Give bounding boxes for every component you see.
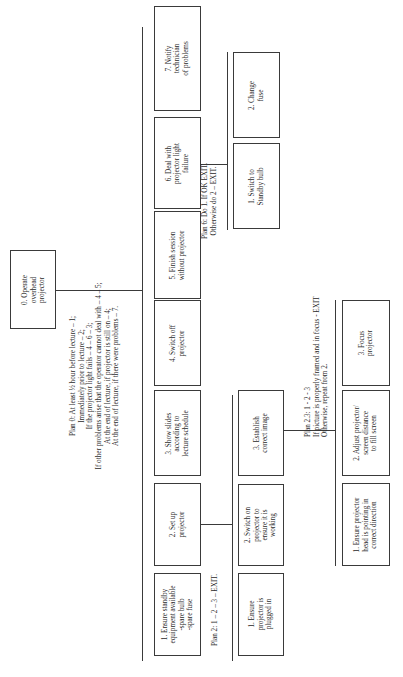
task-label-2-3: 3. Establish correct image [238, 390, 284, 476]
task-label-2-3-3: 3. Focus projector [342, 300, 390, 386]
plan-2-3-line-1: Plan 2.3: 1 - 2 - 3 [304, 387, 313, 437]
subbus-task23 [335, 300, 336, 566]
subbus-task6 [227, 52, 228, 230]
plan-0-line-4: If other problems arise that the operato… [95, 283, 104, 470]
task-label-5: 5. Finish session without projector [154, 212, 201, 300]
plan-2-3-line-3: Otherwise, repeat from 2. [321, 363, 330, 437]
task-label-2: 2. Set up projector [154, 483, 201, 566]
task-label-4: 4. Switch off projector [154, 301, 201, 387]
task-label-2-3-1: 1. Ensure projector head is pointing in … [342, 484, 390, 567]
task-label-2-3-2: 2. Adjust projector/ screen distance to … [342, 390, 390, 476]
task-label-6: 6. Deal with projector light failure [154, 118, 201, 210]
plan-2-3-line-2: If picture is properly framed and in foc… [313, 296, 322, 437]
plan-6-line-1: Plan 6: Do 1. If OK EXIT. [201, 163, 210, 239]
task-label-1: 1. Ensure standby equipment available -s… [154, 573, 201, 656]
subbus-task2 [232, 395, 233, 661]
connector-task2-to-subbus [201, 524, 232, 525]
plan-0-line-6: At the end of lecture, if there were pro… [112, 306, 121, 446]
plan-0-line-5: At the end of lecture, if projector is s… [104, 308, 113, 444]
plan-2-text: Plan 2: 1 – 2 – 3 – EXIT. [209, 555, 221, 665]
plan-0-line-3: If the projector light fails – 4 – 6 – 3… [86, 323, 95, 430]
main-bus-line [142, 27, 143, 661]
plan-6-line-2: Otherwise do 2 – EXIT. [210, 167, 219, 236]
task-label-3: 3. Show slides according to lecture sche… [154, 391, 201, 477]
plan-6-text: Plan 6: Do 1. If OK EXIT. Otherwise do 2… [199, 141, 221, 261]
task-label-2-2: 2. Switch on projector to ensure it is w… [238, 484, 284, 566]
plan-0-line-2: Immediately prior to lecture – 2; [78, 329, 87, 423]
task-label-2-1: 1. Ensure projector is plugged in [238, 573, 284, 656]
task-label-7: 7. Notify technician of problems [154, 6, 201, 111]
task-label-6-2: 2. Change fuse [233, 53, 280, 139]
plan-0-text: Plan 0: At least ½ hour before lecture –… [65, 261, 125, 491]
plan-0-line-1: Plan 0: At least ½ hour before lecture –… [69, 316, 78, 436]
task-label-6-1: 1. Switch to Standby bulb [233, 144, 280, 230]
task-label-0: 0. Operate overhead projector [11, 251, 57, 330]
plan-2-3-text: Plan 2.3: 1 - 2 - 3 If picture is proper… [300, 253, 330, 437]
